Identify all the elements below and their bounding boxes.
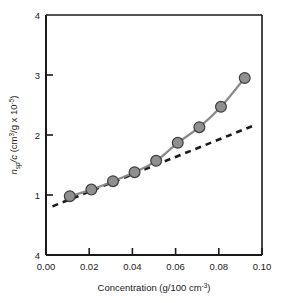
- x-tick-label-2: 0.04: [123, 261, 142, 272]
- y-tick-label-4: 4: [35, 250, 40, 261]
- y-axis-ticks: [46, 75, 53, 195]
- y-tick-label-2: 2: [35, 130, 40, 141]
- data-point-marker: [239, 73, 250, 84]
- data-point-marker: [216, 101, 227, 112]
- x-axis-title-main: Concentration (g/100 cm: [98, 282, 202, 293]
- measured-curve: [70, 78, 245, 196]
- series-measured-markers: [64, 73, 250, 202]
- x-tick-label-3: 0.06: [166, 261, 185, 272]
- x-tick-label-5: 0.10: [253, 261, 272, 272]
- data-point-marker: [151, 155, 162, 166]
- y-axis-title-close: ): [8, 96, 19, 99]
- y-axis-title: nsp/c (cm3/g x 10-5): [8, 96, 22, 175]
- data-point-marker: [64, 191, 75, 202]
- data-point-marker: [194, 122, 205, 133]
- y-axis-title-open: (cm: [8, 136, 19, 155]
- x-axis-title-tail: ): [207, 282, 210, 293]
- chart-figure: 4 3 2 1 4 0.00 0.02 0.04 0.06 0.08 0.10 …: [0, 0, 284, 303]
- y-tick-label-0: 4: [35, 10, 40, 21]
- x-tick-label-0: 0.00: [37, 261, 56, 272]
- data-point-marker: [172, 137, 183, 148]
- y-tick-label-1: 3: [35, 70, 40, 81]
- x-tick-label-4: 0.08: [210, 261, 229, 272]
- data-point-marker: [108, 176, 119, 187]
- x-axis-title: Concentration (g/100 cm-3): [98, 282, 211, 294]
- y-tick-label-3: 1: [35, 190, 40, 201]
- data-point-marker: [129, 167, 140, 178]
- y-tick-labels: 4 3 2 1 4: [35, 10, 40, 261]
- x-axis-ticks: [46, 248, 262, 255]
- y-axis-title-per-g: /g x 10: [8, 104, 19, 133]
- y-axis-title-slash-c: /c: [8, 155, 19, 164]
- chart-svg: 4 3 2 1 4 0.00 0.02 0.04 0.06 0.08 0.10 …: [0, 0, 284, 303]
- x-tick-label-1: 0.02: [80, 261, 99, 272]
- series-measured-line: [70, 78, 245, 196]
- x-tick-labels: 0.00 0.02 0.04 0.06 0.08 0.10: [37, 261, 272, 272]
- data-point-marker: [86, 184, 97, 195]
